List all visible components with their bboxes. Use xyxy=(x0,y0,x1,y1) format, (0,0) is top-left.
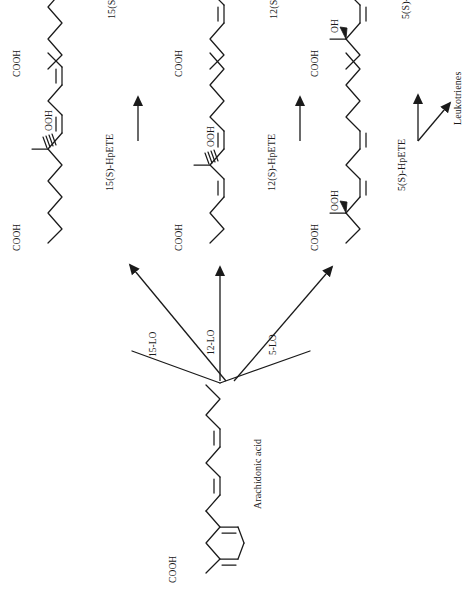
arrow-15s-hpete-to-hete xyxy=(126,83,150,143)
label-leukotrienes: Leukotrienes xyxy=(452,72,463,125)
hpete12-cooh-label: COOH xyxy=(174,224,184,251)
hete5-cooh-label: COOH xyxy=(310,50,320,77)
arrow-12s-hpete-to-hete xyxy=(288,83,312,143)
hete5-oh-label: OH xyxy=(330,19,340,33)
hete12-cooh-label: COOH xyxy=(174,50,184,77)
arachidonic-acid-cooh-label: COOH xyxy=(168,556,178,583)
label-15s-hete: 15(S)-HETE xyxy=(106,0,117,19)
structure-12s-hpete xyxy=(186,53,258,249)
structure-12s-hete xyxy=(186,0,258,75)
label-5s-hpete: 5(S)-HpETE xyxy=(396,139,407,191)
structure-5s-hpete xyxy=(322,53,394,249)
label-12s-hete: 12(S)-HETE xyxy=(268,0,279,19)
label-12s-hpete: 12(S)-HpETE xyxy=(266,134,277,191)
hpete15-ooh-label: OOH xyxy=(44,110,54,131)
arachidonic-acid-label: Arachidonic acid xyxy=(252,439,263,509)
hpete5-cooh-label: COOH xyxy=(310,224,320,251)
enzyme-label-12-lo: 12-LO xyxy=(206,330,216,355)
label-15s-hpete: 15(S)-HpETE xyxy=(104,134,115,191)
hpete5-ooh-label: OOH xyxy=(330,190,340,211)
enzyme-label-15-lo: 15-LO xyxy=(148,332,158,357)
enzyme-label-5-lo: 5-LO xyxy=(268,334,278,355)
structure-15s-hete xyxy=(24,0,96,75)
structure-15s-hpete xyxy=(24,53,96,249)
hpete15-cooh-label: COOH xyxy=(12,224,22,251)
hpete12-ooh-label: OOH xyxy=(206,126,216,147)
structure-5s-hete xyxy=(322,0,394,75)
label-5s-hete: 5(S)-HETE xyxy=(400,0,411,19)
structure-arachidonic-acid xyxy=(180,385,244,581)
hete15-cooh-label: COOH xyxy=(12,50,22,77)
